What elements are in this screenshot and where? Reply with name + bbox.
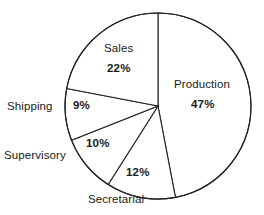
slice-percent-sales: 22% <box>107 63 131 75</box>
slice-percent-supervisory: 10% <box>86 138 110 150</box>
slice-label-supervisory: Supervisory <box>4 150 66 162</box>
pie-chart: Sales 22% Production 47% Shipping 9% Sup… <box>0 0 264 215</box>
slice-percent-shipping: 9% <box>73 100 90 112</box>
slice-label-production: Production <box>174 79 230 91</box>
slice-percent-production: 47% <box>191 99 215 111</box>
slice-label-sales: Sales <box>104 43 133 55</box>
slice-label-shipping: Shipping <box>7 101 53 113</box>
slice-percent-secretarial: 12% <box>126 167 150 179</box>
pie-slice-group <box>65 13 251 199</box>
slice-label-secretarial: Secretarial <box>88 194 144 206</box>
